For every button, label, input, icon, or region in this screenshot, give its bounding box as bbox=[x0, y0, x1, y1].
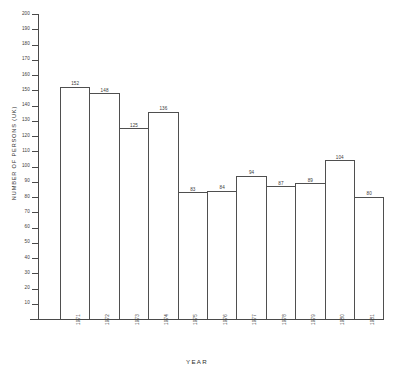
plot-area: 152148125136838494878910480 bbox=[38, 14, 383, 319]
y-tick-label-wrap: 180 bbox=[0, 45, 30, 46]
y-tick-label: 120 bbox=[4, 134, 30, 139]
y-tick-label-wrap: 100 bbox=[0, 167, 30, 168]
y-tick-label-wrap: 60 bbox=[0, 228, 30, 229]
bar-value-label: 84 bbox=[208, 186, 236, 192]
y-tick-label: 90 bbox=[4, 179, 30, 184]
y-tick-label-wrap: 140 bbox=[0, 106, 30, 107]
bar[interactable]: 152 bbox=[60, 87, 90, 319]
y-tick-label: 20 bbox=[4, 286, 30, 291]
x-tick-label: 1975 bbox=[194, 285, 199, 325]
bar[interactable]: 87 bbox=[266, 186, 296, 319]
y-tick-label: 80 bbox=[4, 195, 30, 200]
bar[interactable]: 84 bbox=[207, 191, 237, 319]
y-tick-label-wrap: 160 bbox=[0, 75, 30, 76]
y-tick-label: 140 bbox=[4, 103, 30, 108]
bar-value-label: 87 bbox=[267, 182, 295, 188]
bar-value-label: 125 bbox=[120, 124, 148, 130]
y-tick-label: 70 bbox=[4, 210, 30, 215]
bar-value-label: 104 bbox=[326, 156, 354, 162]
x-tick-label: 1981 bbox=[371, 285, 376, 325]
y-tick-label-wrap: 80 bbox=[0, 197, 30, 198]
bar-chart-figure: NUMBER OF PERSONS (UK) 10203040506070809… bbox=[0, 0, 394, 378]
x-tick-label: 1971 bbox=[77, 285, 82, 325]
bar-value-label: 80 bbox=[355, 192, 383, 198]
y-tick-label: 50 bbox=[4, 240, 30, 245]
y-tick-label: 30 bbox=[4, 271, 30, 276]
bar[interactable]: 89 bbox=[295, 183, 325, 319]
y-tick-label-wrap: 170 bbox=[0, 60, 30, 61]
y-tick-label-wrap: 90 bbox=[0, 182, 30, 183]
bar[interactable]: 104 bbox=[325, 160, 355, 319]
x-tick-label: 1979 bbox=[312, 285, 317, 325]
y-tick-label: 130 bbox=[4, 118, 30, 123]
x-tick-label: 1980 bbox=[341, 285, 346, 325]
y-tick-label: 40 bbox=[4, 256, 30, 261]
y-tick-label: 110 bbox=[4, 149, 30, 154]
bar-value-label: 148 bbox=[90, 89, 118, 95]
bar-value-label: 94 bbox=[237, 171, 265, 177]
bar-value-label: 83 bbox=[179, 188, 207, 194]
y-tick-label: 10 bbox=[4, 301, 30, 306]
bar[interactable]: 80 bbox=[354, 197, 384, 319]
y-tick-label: 160 bbox=[4, 73, 30, 78]
y-tick-label-wrap: 10 bbox=[0, 304, 30, 305]
bar-value-label: 89 bbox=[296, 179, 324, 185]
x-tick-label: 1976 bbox=[224, 285, 229, 325]
x-tick-label: 1978 bbox=[283, 285, 288, 325]
x-axis-line bbox=[30, 319, 384, 320]
y-tick-label: 100 bbox=[4, 164, 30, 169]
bar[interactable]: 136 bbox=[148, 112, 178, 319]
y-tick-label-wrap: 120 bbox=[0, 136, 30, 137]
bar[interactable]: 148 bbox=[89, 93, 119, 319]
y-tick-label: 180 bbox=[4, 42, 30, 47]
y-tick-label-wrap: 110 bbox=[0, 151, 30, 152]
x-axis-title: YEAR bbox=[0, 358, 394, 365]
x-tick-label: 1974 bbox=[165, 285, 170, 325]
bars-layer: 152148125136838494878910480 bbox=[38, 14, 383, 319]
y-tick-label-wrap: 190 bbox=[0, 29, 30, 30]
x-tick-label: 1973 bbox=[136, 285, 141, 325]
y-tick-label-wrap: 150 bbox=[0, 90, 30, 91]
y-tick-label: 170 bbox=[4, 57, 30, 62]
y-tick-label: 150 bbox=[4, 88, 30, 93]
x-tick-label: 1972 bbox=[106, 285, 111, 325]
y-tick-label: 200 bbox=[4, 12, 30, 17]
bar[interactable]: 94 bbox=[236, 176, 266, 319]
bar-value-label: 136 bbox=[149, 107, 177, 113]
bar-value-label: 152 bbox=[61, 82, 89, 88]
y-tick-label-wrap: 20 bbox=[0, 289, 30, 290]
y-tick-label-wrap: 130 bbox=[0, 121, 30, 122]
y-tick-label-wrap: 50 bbox=[0, 243, 30, 244]
y-tick-label: 190 bbox=[4, 27, 30, 32]
y-tick-label: 60 bbox=[4, 225, 30, 230]
y-tick-label-wrap: 200 bbox=[0, 14, 30, 15]
x-tick-label: 1977 bbox=[253, 285, 258, 325]
bar[interactable]: 83 bbox=[178, 192, 208, 319]
y-tick-label-wrap: 40 bbox=[0, 258, 30, 259]
y-tick-label-wrap: 30 bbox=[0, 273, 30, 274]
bar[interactable]: 125 bbox=[119, 128, 149, 319]
y-tick-label-wrap: 70 bbox=[0, 212, 30, 213]
